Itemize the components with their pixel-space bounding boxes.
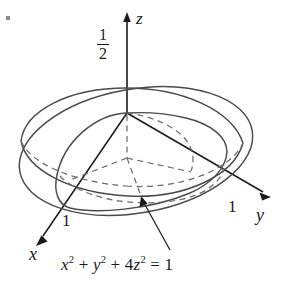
lower-radius-left-hidden-line xyxy=(70,158,127,180)
y-axis-line xyxy=(127,113,263,192)
ellipsoid-figure: z y x 1 1 1 2 x2 + y2 + 4z2 = 1 xyxy=(0,0,283,299)
equation-term-x: x xyxy=(61,255,69,274)
meridian-upper-arc xyxy=(127,113,227,152)
fraction-numerator: 1 xyxy=(97,27,109,43)
equation-op-equals: = xyxy=(150,255,160,274)
equation-coef-4: 4 xyxy=(125,255,134,274)
z-axis-tick-label-fraction: 1 2 xyxy=(97,27,109,63)
fraction-one-half: 1 2 xyxy=(97,27,109,63)
y-axis-label: y xyxy=(256,206,264,224)
y-axis-arrowhead xyxy=(260,193,272,201)
z-axis-arrowhead xyxy=(123,12,131,22)
equation-exp-y: 2 xyxy=(101,254,106,265)
z-axis xyxy=(123,12,131,113)
equation-term-y: y xyxy=(93,255,101,274)
equation-op-plus-2: + xyxy=(111,255,121,274)
lower-radius-front-hidden-line xyxy=(127,158,141,196)
y-axis-tick-label: 1 xyxy=(228,198,237,215)
equation-exp-x: 2 xyxy=(69,254,74,265)
y-axis xyxy=(127,113,271,201)
x-axis-arrowhead xyxy=(36,235,48,246)
z-axis-label: z xyxy=(136,10,143,27)
x-axis-label: x xyxy=(29,245,37,263)
meridian-hidden-arc xyxy=(127,113,193,171)
equation-exp-z: 2 xyxy=(140,254,145,265)
equation-caption: x2 + y2 + 4z2 = 1 xyxy=(61,256,173,273)
equation-rhs-value: 1 xyxy=(165,255,174,274)
x-axis-tick-label: 1 xyxy=(62,212,71,229)
lower-radius-right-hidden-line xyxy=(127,158,191,172)
equation-op-plus-1: + xyxy=(79,255,89,274)
fraction-denominator: 2 xyxy=(97,46,109,62)
